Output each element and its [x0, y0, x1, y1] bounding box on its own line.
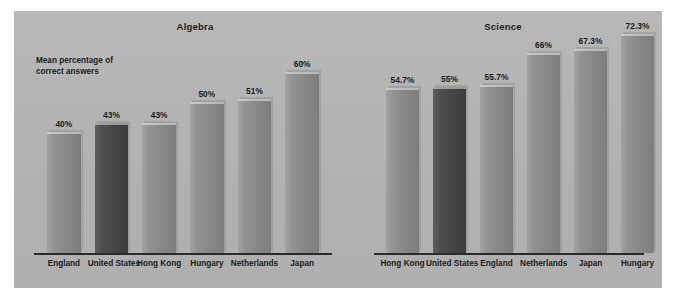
category-label-united-states: United States [88, 259, 136, 268]
chart-figure: Algebra Mean percentage of correct answe… [0, 0, 676, 305]
bar-slot: 43% [95, 11, 128, 253]
bar-value-label: 43% [151, 110, 168, 120]
bar-slot: 67.3% [574, 11, 607, 253]
x-axis-line-science [374, 253, 644, 255]
category-label-united-states: United States [426, 259, 473, 268]
category-label-hungary: Hungary [183, 259, 231, 268]
bar-united-states[interactable] [95, 123, 128, 253]
bar-top-highlight [433, 87, 466, 89]
bar-value-label: 43% [103, 110, 120, 120]
panel-algebra: Algebra Mean percentage of correct answe… [14, 11, 344, 288]
bar-top-highlight [190, 102, 223, 104]
category-labels-science: Hong KongUnited StatesEnglandNetherlands… [379, 259, 661, 279]
x-axis-line-algebra [34, 253, 332, 255]
bar-slot: 51% [238, 11, 271, 253]
bar-slot: 40% [47, 11, 80, 253]
bar-value-label: 60% [294, 59, 311, 69]
panel-science: Science 54.7%55%55.7%66%67.3%72.3% Hong … [344, 11, 662, 288]
bar-value-label: 72.3% [626, 21, 650, 31]
bar-top-highlight [142, 123, 175, 125]
category-label-hungary: Hungary [614, 259, 661, 268]
bar-top-highlight [95, 123, 128, 125]
chart-plate: Algebra Mean percentage of correct answe… [14, 11, 662, 288]
bar-hong-kong[interactable] [386, 88, 419, 253]
category-label-hong-kong: Hong Kong [135, 259, 183, 268]
bar-top-highlight [386, 88, 419, 90]
bar-united-states[interactable] [433, 87, 466, 253]
category-label-netherlands: Netherlands [520, 259, 567, 268]
bar-england[interactable] [480, 85, 513, 253]
bar-hungary[interactable] [190, 102, 223, 253]
bar-slot: 54.7% [386, 11, 419, 253]
category-label-netherlands: Netherlands [231, 259, 279, 268]
bar-japan[interactable] [285, 72, 318, 254]
bar-group-science: 54.7%55%55.7%66%67.3%72.3% [379, 11, 661, 253]
category-label-england: England [473, 259, 520, 268]
bar-netherlands[interactable] [238, 99, 271, 253]
bar-slot: 72.3% [621, 11, 654, 253]
bar-value-label: 67.3% [579, 36, 603, 46]
bar-value-label: 40% [55, 119, 72, 129]
category-label-england: England [40, 259, 88, 268]
bar-group-algebra: 40%43%43%50%51%60% [40, 11, 326, 253]
category-label-japan: Japan [567, 259, 614, 268]
bar-value-label: 55% [441, 74, 458, 84]
bar-top-highlight [47, 132, 80, 134]
bar-top-highlight [621, 34, 654, 36]
bar-value-label: 54.7% [391, 75, 415, 85]
bar-value-label: 51% [246, 86, 263, 96]
plot-area-algebra: 40%43%43%50%51%60% [14, 11, 344, 255]
bar-slot: 66% [527, 11, 560, 253]
bar-value-label: 66% [535, 40, 552, 50]
bar-top-highlight [574, 49, 607, 51]
plot-area-science: 54.7%55%55.7%66%67.3%72.3% [344, 11, 662, 255]
category-labels-algebra: EnglandUnited StatesHong KongHungaryNeth… [40, 259, 326, 279]
bar-top-highlight [527, 53, 560, 55]
bar-hungary[interactable] [621, 34, 654, 253]
bar-japan[interactable] [574, 49, 607, 253]
bar-value-label: 50% [198, 89, 215, 99]
bar-england[interactable] [47, 132, 80, 253]
bar-value-label: 55.7% [485, 72, 509, 82]
bar-slot: 55.7% [480, 11, 513, 253]
bar-netherlands[interactable] [527, 53, 560, 253]
bar-top-highlight [238, 99, 271, 101]
category-label-hong-kong: Hong Kong [379, 259, 426, 268]
bar-top-highlight [285, 72, 318, 74]
bar-top-highlight [480, 85, 513, 87]
category-label-japan: Japan [278, 259, 326, 268]
bar-slot: 55% [433, 11, 466, 253]
bar-slot: 43% [142, 11, 175, 253]
bar-slot: 60% [285, 11, 318, 253]
bar-hong-kong[interactable] [142, 123, 175, 253]
bar-slot: 50% [190, 11, 223, 253]
